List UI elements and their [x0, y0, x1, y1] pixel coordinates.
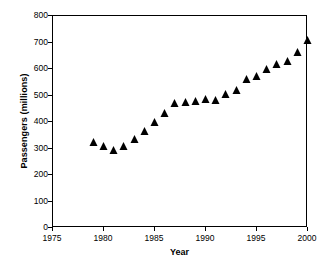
data-point-marker: [191, 97, 199, 105]
data-point-marker: [283, 57, 291, 65]
x-axis-tick-mark: [205, 227, 206, 231]
data-point-marker: [181, 98, 189, 106]
data-point-marker: [212, 96, 220, 104]
y-axis-tick-mark: [48, 121, 52, 122]
data-point-marker: [89, 138, 97, 146]
y-axis-tick-label: 200: [24, 170, 48, 179]
y-axis-tick-mark: [48, 42, 52, 43]
y-axis-tick-mark: [48, 15, 52, 16]
data-point-marker: [120, 142, 128, 150]
y-axis-tick-label: 800: [24, 11, 48, 20]
data-point-marker: [100, 142, 108, 150]
data-point-marker: [263, 65, 271, 73]
data-point-marker: [253, 72, 261, 80]
x-axis-tick-mark: [307, 227, 308, 231]
y-axis-tick-mark: [48, 201, 52, 202]
x-axis-title: Year: [52, 247, 307, 258]
x-axis-tick-label: 2000: [287, 233, 325, 243]
plot-area: [52, 15, 307, 227]
y-axis-tick-mark: [48, 148, 52, 149]
y-axis-tick-label: 600: [24, 64, 48, 73]
x-axis-tick-label: 1985: [134, 233, 174, 243]
y-axis-tick-mark: [48, 95, 52, 96]
passengers-by-year-chart: Passengers (millions) 010020030040050060…: [0, 0, 325, 265]
data-point-marker: [293, 48, 301, 56]
x-axis-tick-label: 1975: [32, 233, 72, 243]
x-axis-tick-label: 1980: [83, 233, 123, 243]
x-axis-tick-mark: [103, 227, 104, 231]
y-axis-tick-mark: [48, 68, 52, 69]
y-axis-tick-label: 300: [24, 143, 48, 152]
y-axis-tick-label: 100: [24, 196, 48, 205]
data-point-marker: [151, 118, 159, 126]
data-point-marker: [130, 135, 138, 143]
x-axis-tick-labels: 197519801985199019952000: [0, 233, 325, 245]
x-axis-tick-mark: [256, 227, 257, 231]
data-point-marker: [202, 95, 210, 103]
data-point-marker: [242, 75, 250, 83]
data-point-marker: [110, 146, 118, 154]
data-point-marker: [222, 90, 230, 98]
x-axis-tick-mark: [52, 227, 53, 231]
data-point-marker: [140, 127, 148, 135]
data-point-marker: [171, 99, 179, 107]
data-point-marker: [161, 109, 169, 117]
x-axis-tick-mark: [154, 227, 155, 231]
data-point-marker: [232, 86, 240, 94]
y-axis-tick-label: 400: [24, 117, 48, 126]
y-axis-tick-label: 0: [24, 223, 48, 232]
data-point-marker: [273, 60, 281, 68]
x-axis-tick-label: 1995: [236, 233, 276, 243]
y-axis-tick-mark: [48, 174, 52, 175]
y-axis-tick-label: 500: [24, 90, 48, 99]
data-point-marker: [304, 36, 312, 44]
y-axis-tick-label: 700: [24, 37, 48, 46]
y-axis-tick-labels: 0100200300400500600700800: [24, 15, 48, 227]
x-axis-tick-label: 1990: [185, 233, 225, 243]
